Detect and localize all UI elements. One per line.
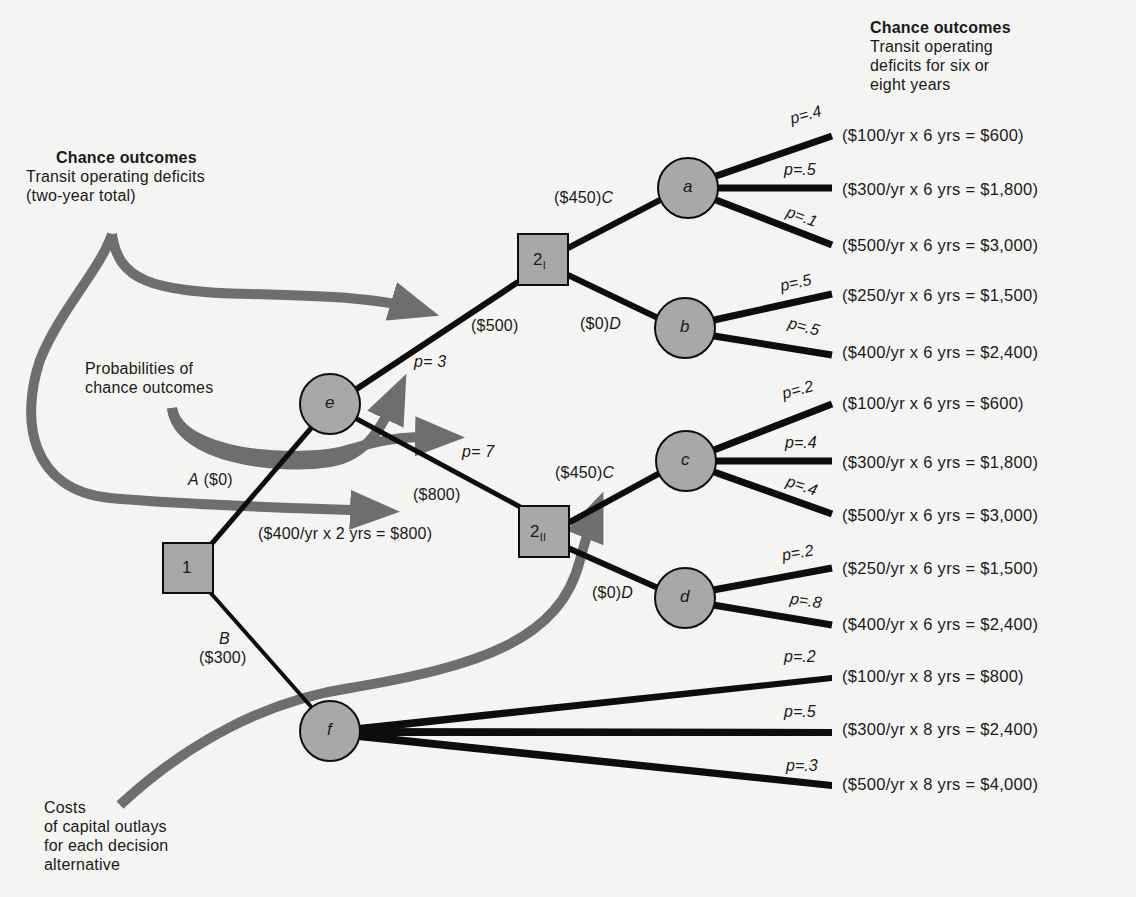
node-c-label: c	[681, 450, 690, 469]
outcome-value: ($300/yr x 6 yrs = $1,800)	[842, 180, 1038, 199]
annotation-right-line: eight years	[870, 75, 950, 94]
outcome-value: ($250/yr x 6 yrs = $1,500)	[842, 559, 1038, 578]
branch-e-down-prob: p= 7	[462, 442, 494, 461]
annotation-right-line: deficits for six or	[870, 56, 989, 75]
node-a-label: a	[683, 177, 693, 196]
outcome-prob: p=.5	[784, 703, 816, 721]
branch-B-cost: ($300)	[199, 648, 246, 667]
branch-2II-D-letter: D	[621, 584, 633, 601]
node-2I-label: 2I	[533, 250, 546, 275]
annotation-left-line: (two-year total)	[26, 186, 136, 205]
node-2I-num: 2	[533, 250, 543, 269]
annotation-costs-line: of capital outlays	[44, 817, 167, 836]
outcome-prob: p=.4	[785, 434, 817, 452]
outcome-prob: p=.3	[786, 757, 818, 775]
node-2II-num: 2	[530, 522, 540, 541]
branch-2I-C-letter: C	[601, 189, 613, 206]
annotation-right-line: Transit operating	[870, 37, 993, 56]
branch-2II-D-label: ($0)D	[592, 583, 633, 602]
branch-2II-C-letter: C	[602, 464, 614, 481]
branch-A-label: A ($0)	[188, 470, 233, 489]
outcome-value: ($400/yr x 6 yrs = $2,400)	[842, 615, 1038, 634]
node-f-label: f	[327, 720, 332, 739]
annotation-right-title: Chance outcomes	[870, 18, 1011, 37]
outcome-value: ($400/yr x 6 yrs = $2,400)	[842, 343, 1038, 362]
branch-2I-C-cost: ($450)	[554, 189, 601, 206]
outcome-value: ($500/yr x 6 yrs = $3,000)	[842, 506, 1038, 525]
node-d-label: d	[680, 587, 690, 606]
annotation-costs-line: for each decision	[44, 836, 168, 855]
annotation-costs-line: alternative	[44, 855, 120, 874]
branch-2I-D-label: ($0)D	[580, 314, 621, 333]
annotation-costs-line: Costs	[44, 798, 86, 817]
branch-2II-C-cost: ($450)	[555, 464, 602, 481]
outcome-value: ($500/yr x 6 yrs = $3,000)	[842, 236, 1038, 255]
branch-2II-C-label: ($450)C	[555, 463, 614, 482]
branch-e-down-detail: ($400/yr x 2 yrs = $800)	[258, 524, 432, 543]
annotation-left-line: Transit operating deficits	[26, 167, 205, 186]
outcome-prob: p=.2	[784, 648, 816, 666]
branch-B-letter: B	[219, 629, 230, 648]
branch-e-up-prob: p= 3	[414, 352, 446, 371]
branch-e-up-cost: ($500)	[471, 316, 518, 335]
annotation-probabilities-line: chance outcomes	[85, 378, 213, 397]
annotation-probabilities-line: Probabilities of	[85, 359, 193, 378]
branch-2II-D-cost: ($0)	[592, 584, 621, 601]
outcome-value: ($300/yr x 8 yrs = $2,400)	[842, 720, 1038, 739]
outcome-value: ($100/yr x 6 yrs = $600)	[842, 126, 1024, 145]
node-2I-sub: I	[543, 259, 546, 271]
node-1-label: 1	[182, 558, 192, 577]
branch-A-letter: A	[188, 471, 199, 488]
outcome-prob: p=.5	[784, 161, 816, 179]
arrow-to-500	[112, 234, 420, 310]
branch-e-down-cost: ($800)	[413, 485, 460, 504]
node-b-label: b	[680, 317, 690, 336]
outcome-value: ($100/yr x 8 yrs = $800)	[842, 667, 1024, 686]
outcome-value: ($300/yr x 6 yrs = $1,800)	[842, 453, 1038, 472]
node-e-label: e	[325, 393, 335, 412]
branch-2I-D-letter: D	[609, 315, 621, 332]
node-2II-label: 2II	[530, 522, 546, 547]
outcome-value: ($250/yr x 6 yrs = $1,500)	[842, 286, 1038, 305]
outcome-value: ($100/yr x 6 yrs = $600)	[842, 394, 1024, 413]
branch-2I-C-label: ($450)C	[554, 188, 613, 207]
node-2II-sub: II	[540, 531, 547, 543]
branch-2I-D-cost: ($0)	[580, 315, 609, 332]
branch-A-cost: ($0)	[204, 471, 233, 488]
outcome-value: ($500/yr x 8 yrs = $4,000)	[842, 775, 1038, 794]
annotation-left-title: Chance outcomes	[56, 148, 197, 167]
